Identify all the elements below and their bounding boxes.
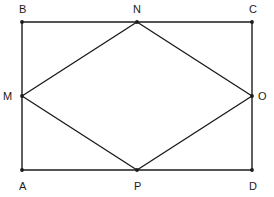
vertex-label-C: C <box>249 4 257 15</box>
vertex-label-B: B <box>19 4 27 15</box>
segments-group <box>22 22 252 170</box>
vertex-label-O: O <box>258 91 267 102</box>
vertex-label-A: A <box>19 181 27 192</box>
geometry-figure: B N C M O A P D <box>0 0 274 197</box>
vertex-label-N: N <box>133 4 141 15</box>
vertex-point-N <box>135 20 139 24</box>
vertex-label-P: P <box>134 181 142 192</box>
vertex-point-M <box>20 94 24 98</box>
vertex-point-D <box>250 168 254 172</box>
vertex-label-M: M <box>3 91 12 102</box>
segment-PM <box>22 96 137 170</box>
vertex-point-P <box>135 168 139 172</box>
segment-NO <box>137 22 252 96</box>
vertex-label-D: D <box>249 181 257 192</box>
geometry-canvas <box>0 0 274 197</box>
vertex-point-A <box>20 168 24 172</box>
segment-OP <box>137 96 252 170</box>
vertex-point-O <box>250 94 254 98</box>
vertex-point-C <box>250 20 254 24</box>
vertex-point-B <box>20 20 24 24</box>
segment-MN <box>22 22 137 96</box>
vertex-points-group <box>20 20 254 172</box>
